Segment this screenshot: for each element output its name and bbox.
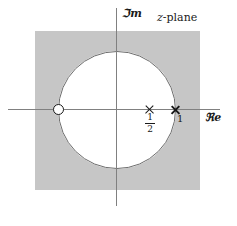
fraction-denominator: 2 — [144, 125, 156, 134]
unit-circle — [58, 51, 176, 169]
pole-label-one-half: 1 2 — [144, 113, 156, 135]
plane-title-label: z-plane — [157, 12, 197, 23]
z-plane-pole-zero-diagram: ℑm ℜe z-plane 1 2 1 — [0, 0, 237, 226]
real-axis-label: ℜe — [205, 112, 222, 123]
fraction-numerator: 1 — [144, 113, 156, 122]
zero-marker-minus-one — [53, 104, 64, 115]
imaginary-axis — [116, 8, 117, 206]
pole-label-one: 1 — [177, 114, 183, 124]
real-axis — [8, 109, 220, 110]
imaginary-axis-label: ℑm — [122, 8, 142, 19]
